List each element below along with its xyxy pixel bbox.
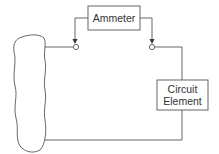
- circuit-element-label: Circuit Element: [157, 83, 208, 107]
- source-blob: [14, 35, 46, 152]
- terminal-right: [149, 44, 154, 49]
- wire-right: [155, 47, 182, 80]
- ammeter-lead-right: [140, 18, 152, 41]
- terminal-left: [73, 44, 78, 49]
- ammeter-lead-left: [75, 18, 88, 41]
- arrow-right-icon: [150, 39, 155, 44]
- circuit-element-line1: Circuit: [157, 83, 208, 95]
- wire-bottom: [45, 110, 182, 140]
- ammeter-label: Ammeter: [88, 12, 140, 24]
- circuit-element-line2: Element: [157, 95, 208, 107]
- arrow-left-icon: [73, 39, 78, 44]
